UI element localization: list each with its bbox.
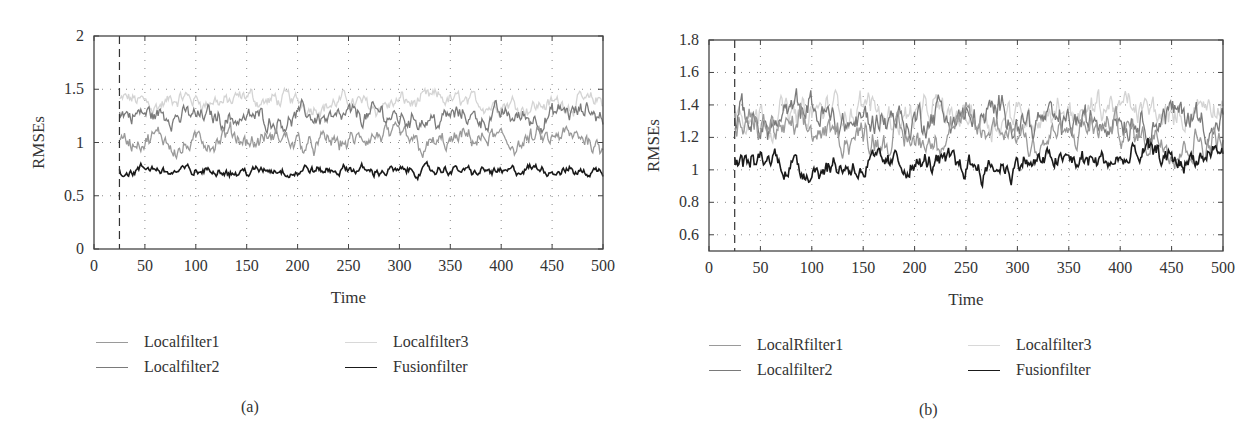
x-tick-label: 350 (438, 257, 462, 274)
x-tick-label: 50 (137, 257, 153, 274)
plot-a: 05010015020025030035040045050000.511.52T… (29, 27, 615, 307)
series-line (120, 89, 604, 118)
x-tick-label: 250 (954, 259, 978, 276)
caption-b: (b) (919, 401, 938, 419)
legend-label: Fusionfilter (1016, 361, 1091, 379)
series-line (120, 122, 604, 159)
x-tick-label: 200 (903, 259, 927, 276)
legend-label: Fusionfilter (393, 358, 468, 376)
series-line (735, 138, 1223, 186)
y-tick-label: 2 (76, 27, 84, 44)
legend-item: Localfilter2 (96, 358, 220, 376)
y-tick-label: 1.6 (679, 63, 699, 80)
legend-label: Localfilter2 (144, 358, 220, 376)
series-line (735, 88, 1223, 149)
x-tick-label: 300 (387, 257, 411, 274)
series-line (735, 89, 1223, 142)
series-line (120, 162, 604, 179)
plot-b: 0501001502002503003504004505000.60.811.2… (644, 31, 1235, 309)
x-tick-label: 450 (1160, 259, 1184, 276)
x-tick-label: 500 (591, 257, 615, 274)
legend-label: Localfilter2 (757, 361, 833, 379)
x-tick-label: 500 (1211, 259, 1235, 276)
y-tick-label: 1.8 (679, 31, 699, 48)
legend-item: Localfilter3 (968, 336, 1092, 354)
y-tick-label: 1 (691, 161, 699, 178)
x-tick-label: 450 (540, 257, 564, 274)
x-axis-label: Time (948, 290, 983, 309)
legend-item: Localfilter1 (96, 333, 220, 351)
legend-item: Localfilter3 (345, 333, 469, 351)
legend-item: Fusionfilter (968, 361, 1091, 379)
x-tick-label: 200 (286, 257, 310, 274)
x-tick-label: 0 (705, 259, 713, 276)
legend-swatch (709, 345, 741, 346)
y-tick-label: 0.6 (679, 226, 699, 243)
legend-item: Fusionfilter (345, 358, 468, 376)
y-tick-label: 1 (76, 134, 84, 151)
y-axis-label: RMSEs (29, 116, 48, 169)
legend-label: Localfilter3 (1016, 336, 1092, 354)
legend-swatch (345, 367, 377, 368)
x-tick-label: 150 (235, 257, 259, 274)
legend-item: Localfilter2 (709, 361, 833, 379)
y-tick-label: 0.5 (64, 187, 84, 204)
x-axis-label: Time (331, 288, 366, 307)
y-axis-label: RMSEs (644, 119, 663, 172)
legend-swatch (968, 345, 1000, 346)
x-tick-label: 100 (184, 257, 208, 274)
legend-label: Localfilter3 (393, 333, 469, 351)
y-tick-label: 0.8 (679, 193, 699, 210)
y-tick-label: 1.5 (64, 80, 84, 97)
legend-swatch (968, 370, 1000, 371)
x-tick-label: 50 (752, 259, 768, 276)
legend-swatch (709, 370, 741, 371)
x-tick-label: 400 (1108, 259, 1132, 276)
x-tick-label: 300 (1005, 259, 1029, 276)
y-tick-label: 1.4 (679, 96, 699, 113)
legend-label: LocalRfilter1 (757, 336, 843, 354)
x-tick-label: 100 (800, 259, 824, 276)
x-tick-label: 150 (851, 259, 875, 276)
y-tick-label: 0 (76, 240, 84, 257)
x-tick-label: 400 (489, 257, 513, 274)
legend-item: LocalRfilter1 (709, 336, 843, 354)
legend-swatch (345, 342, 377, 343)
y-tick-label: 1.2 (679, 128, 699, 145)
caption-a: (a) (241, 398, 259, 416)
x-tick-label: 350 (1057, 259, 1081, 276)
x-tick-label: 250 (337, 257, 361, 274)
legend-swatch (96, 342, 128, 343)
legend-swatch (96, 367, 128, 368)
x-tick-label: 0 (90, 257, 98, 274)
legend-label: Localfilter1 (144, 333, 220, 351)
